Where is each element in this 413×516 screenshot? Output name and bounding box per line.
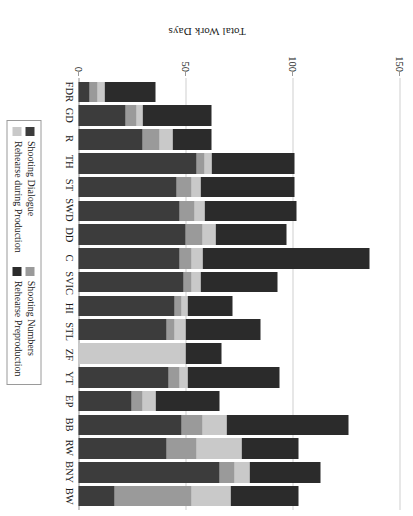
y-axis-tick-mark-150: [399, 72, 400, 76]
legend-item-2[interactable]: Rehearse during Production: [12, 127, 22, 253]
bar-segment-BNY-1[interactable]: [219, 462, 234, 483]
bar-YT[interactable]: [78, 367, 399, 388]
bar-segment-YT-0[interactable]: [78, 367, 168, 388]
bar-SVIC[interactable]: [78, 272, 399, 293]
bar-segment-STL-2[interactable]: [174, 319, 185, 340]
bar-segment-ZF-2[interactable]: [78, 343, 185, 364]
bar-segment-SVIC-3[interactable]: [200, 272, 277, 293]
bar-segment-TH-3[interactable]: [211, 153, 294, 174]
bar-R[interactable]: [78, 129, 399, 150]
bar-segment-FDR-3[interactable]: [104, 82, 155, 103]
y-axis-tick-mark-100: [292, 72, 293, 76]
bar-segment-HI-1[interactable]: [174, 296, 180, 317]
bar-segment-GD-1[interactable]: [125, 105, 136, 126]
bar-segment-EP-0[interactable]: [78, 391, 132, 412]
legend-item-0[interactable]: Shooting Dialogue: [25, 127, 35, 253]
bar-ZF[interactable]: [78, 343, 399, 364]
bar-ST[interactable]: [78, 177, 399, 198]
bar-segment-SWD-0[interactable]: [78, 201, 179, 222]
bar-segment-R-3[interactable]: [172, 129, 211, 150]
bar-segment-SWD-2[interactable]: [194, 201, 205, 222]
bar-BW[interactable]: [78, 486, 399, 507]
bar-DD[interactable]: [78, 224, 399, 245]
bar-segment-RW-0[interactable]: [78, 438, 166, 459]
bar-segment-FDR-2[interactable]: [97, 82, 103, 103]
bar-BB[interactable]: [78, 415, 399, 436]
bar-segment-BB-2[interactable]: [202, 415, 226, 436]
bar-segment-STL-1[interactable]: [166, 319, 175, 340]
bar-segment-SVIC-1[interactable]: [183, 272, 192, 293]
bar-segment-BW-1[interactable]: [114, 486, 191, 507]
bar-SWD[interactable]: [78, 201, 399, 222]
bar-segment-DD-3[interactable]: [215, 224, 286, 245]
bar-segment-BW-0[interactable]: [78, 486, 114, 507]
bar-segment-HI-3[interactable]: [187, 296, 232, 317]
bar-segment-R-0[interactable]: [78, 129, 142, 150]
bar-segment-RW-1[interactable]: [166, 438, 196, 459]
bar-TH[interactable]: [78, 153, 399, 174]
bar-segment-BB-0[interactable]: [78, 415, 181, 436]
bar-segment-ZF-3[interactable]: [185, 343, 221, 364]
y-axis-title: Total Work Days: [0, 14, 413, 38]
category-label-C: C: [58, 248, 78, 268]
bar-segment-FDR-0[interactable]: [78, 82, 89, 103]
bar-segment-BB-3[interactable]: [226, 415, 348, 436]
bar-segment-DD-0[interactable]: [78, 224, 185, 245]
bar-segment-TH-2[interactable]: [204, 153, 210, 174]
bar-segment-GD-0[interactable]: [78, 105, 125, 126]
bar-segment-BW-3[interactable]: [230, 486, 298, 507]
bar-segment-EP-3[interactable]: [155, 391, 219, 412]
bar-segment-C-3[interactable]: [202, 248, 369, 269]
bar-segment-STL-3[interactable]: [185, 319, 260, 340]
bar-segment-C-1[interactable]: [179, 248, 192, 269]
bar-segment-DD-1[interactable]: [185, 224, 202, 245]
bar-segment-TH-0[interactable]: [78, 153, 196, 174]
bar-C[interactable]: [78, 248, 399, 269]
bar-segment-BW-2[interactable]: [191, 486, 230, 507]
bar-segment-EP-1[interactable]: [132, 391, 143, 412]
bar-segment-HI-2[interactable]: [181, 296, 187, 317]
bar-segment-DD-2[interactable]: [202, 224, 215, 245]
bar-segment-ST-1[interactable]: [176, 177, 191, 198]
bar-STL[interactable]: [78, 319, 399, 340]
bar-segment-EP-2[interactable]: [142, 391, 155, 412]
legend-item-1[interactable]: Shooting Numbers: [25, 267, 35, 377]
category-label-ZF: ZF: [58, 345, 78, 365]
bar-EP[interactable]: [78, 391, 399, 412]
bar-segment-SVIC-2[interactable]: [191, 272, 200, 293]
legend-swatch-icon: [26, 267, 35, 276]
bar-segment-HI-0[interactable]: [78, 296, 174, 317]
bar-segment-FDR-1[interactable]: [89, 82, 98, 103]
bar-GD[interactable]: [78, 105, 399, 126]
bar-segment-STL-0[interactable]: [78, 319, 166, 340]
bar-segment-GD-2[interactable]: [136, 105, 142, 126]
bar-segment-YT-3[interactable]: [187, 367, 279, 388]
bar-segment-C-2[interactable]: [191, 248, 202, 269]
bar-segment-BNY-3[interactable]: [249, 462, 320, 483]
bar-segment-TH-1[interactable]: [196, 153, 205, 174]
bar-segment-R-1[interactable]: [142, 129, 159, 150]
bar-segment-GD-3[interactable]: [142, 105, 210, 126]
bar-segment-YT-2[interactable]: [179, 367, 188, 388]
bar-segment-RW-3[interactable]: [241, 438, 299, 459]
bar-segment-ST-0[interactable]: [78, 177, 176, 198]
bar-segment-C-0[interactable]: [78, 248, 179, 269]
category-label-RW: RW: [58, 438, 78, 458]
legend-label: Shooting Numbers: [25, 281, 35, 356]
bar-segment-ST-3[interactable]: [200, 177, 294, 198]
bar-segment-BB-1[interactable]: [181, 415, 202, 436]
bar-segment-SVIC-0[interactable]: [78, 272, 183, 293]
bar-FDR[interactable]: [78, 82, 399, 103]
bar-HI[interactable]: [78, 296, 399, 317]
bar-BNY[interactable]: [78, 462, 399, 483]
bar-segment-SWD-3[interactable]: [204, 201, 296, 222]
legend-item-3[interactable]: Rehearse Preproduction: [12, 267, 22, 377]
bar-segment-BNY-2[interactable]: [234, 462, 249, 483]
bar-segment-SWD-1[interactable]: [179, 201, 194, 222]
bar-segment-R-2[interactable]: [159, 129, 172, 150]
bar-segment-RW-2[interactable]: [196, 438, 241, 459]
bar-segment-YT-1[interactable]: [168, 367, 179, 388]
bar-segment-ST-2[interactable]: [191, 177, 200, 198]
bar-segment-BNY-0[interactable]: [78, 462, 219, 483]
bar-RW[interactable]: [78, 438, 399, 459]
